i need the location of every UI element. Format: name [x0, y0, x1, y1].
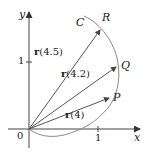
x-axis — [8, 126, 140, 132]
vector-label-r45: r(4.5) — [34, 47, 63, 57]
curve-label: C — [76, 17, 84, 28]
point-label-p: P — [113, 92, 120, 103]
origin-label: 0 — [17, 131, 23, 141]
x-tick-label: 1 — [95, 133, 101, 143]
x-axis-label: x — [134, 132, 140, 143]
point-label-r: R — [102, 12, 110, 23]
point-label-q: Q — [121, 60, 130, 71]
vector-label-r4: r(4) — [65, 110, 84, 120]
y-axis-label: y — [19, 9, 25, 20]
vector-function-diagram: y x 0 1 1 C R Q P r(4.5) r(4.2) r(4) — [0, 0, 148, 154]
y-tick-label: 1 — [18, 56, 24, 66]
vector-label-r42: r(4.2) — [61, 69, 90, 79]
